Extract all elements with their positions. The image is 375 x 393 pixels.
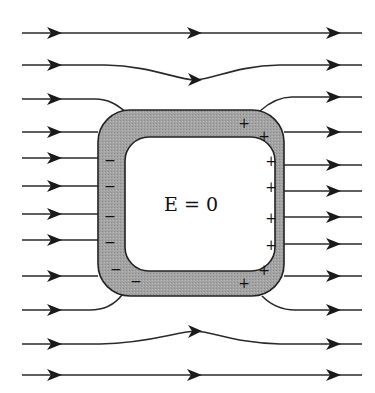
positive-charge: +	[265, 153, 277, 169]
positive-charge: +	[258, 128, 270, 144]
positive-charge: +	[265, 210, 277, 226]
field-line-10-right	[262, 296, 362, 310]
field-diagram: − − − − − − + + + + + + + + E = 0	[0, 0, 375, 393]
negative-charge: −	[104, 234, 116, 250]
negative-charge: −	[104, 178, 116, 194]
positive-charge: +	[238, 275, 250, 291]
field-line-3	[22, 99, 126, 112]
positive-charge: +	[238, 115, 250, 131]
field-inside-label: E = 0	[164, 193, 218, 215]
field-line-10	[22, 295, 122, 310]
field-line-3-right	[260, 97, 362, 111]
negative-charge: −	[110, 261, 122, 277]
positive-charge: +	[265, 179, 277, 195]
negative-charge: −	[130, 273, 142, 289]
negative-charge: −	[104, 152, 116, 168]
positive-charge: +	[265, 237, 277, 253]
positive-charge: +	[258, 262, 270, 278]
negative-charge: −	[104, 208, 116, 224]
